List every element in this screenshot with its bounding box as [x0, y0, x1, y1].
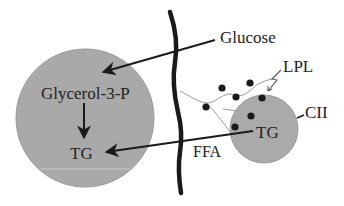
lipid-uptake-diagram: Glucose Glycerol-3-P TG LPL CII TG FFA: [0, 0, 344, 206]
glucose-arrow: [103, 40, 215, 72]
cell-tg-label: TG: [70, 144, 93, 163]
lpl-label: LPL: [283, 57, 313, 76]
ffa-label: FFA: [193, 143, 222, 160]
lpl-dot: [218, 84, 225, 91]
lipoprotein-tg-label: TG: [256, 123, 279, 142]
cii-pointer: [297, 115, 304, 118]
glucose-label: Glucose: [220, 28, 276, 47]
lpl-dot: [247, 112, 254, 119]
lpl-dot: [232, 93, 239, 100]
lpl-dot: [246, 79, 253, 86]
cii-label: CII: [305, 103, 328, 122]
lpl-dot: [202, 103, 209, 110]
glycerol-3-p-label: Glycerol-3-P: [41, 84, 130, 103]
lpl-pointer: [268, 70, 281, 91]
lpl-dot: [258, 94, 265, 101]
membrane-line: [170, 12, 181, 193]
lpl-dot: [231, 123, 238, 130]
